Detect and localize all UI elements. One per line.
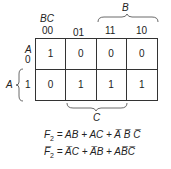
col-header-00: 00 xyxy=(42,26,53,36)
cell-0-10: 0 xyxy=(127,39,157,70)
row-header-0: 0 xyxy=(25,55,31,65)
cell-0-00: 1 xyxy=(36,39,66,70)
corner-label: BC xyxy=(40,14,54,24)
col-header-01: 01 xyxy=(73,28,84,38)
eq-sub: 2 xyxy=(50,135,54,142)
cell-1-11: 1 xyxy=(97,70,127,101)
brace-top-label: B xyxy=(122,3,129,13)
cell-1-10: 1 xyxy=(127,70,157,101)
brace-left-icon xyxy=(14,68,24,102)
brace-top-icon xyxy=(96,13,160,23)
cell-0-11: 0 xyxy=(97,39,127,70)
cell-1-01: 1 xyxy=(66,70,96,101)
equations: F2 = AB + AC + A̅ B̅ C̅ F̅2 = A̅C + A̅B … xyxy=(44,128,140,162)
col-header-10: 10 xyxy=(136,26,147,36)
brace-bottom-icon xyxy=(65,102,129,112)
brace-bottom-label: C xyxy=(93,113,100,123)
eq-rhs: = A̅C + A̅B + AB̅C̅ xyxy=(57,146,135,157)
brace-left-label: A xyxy=(6,80,13,90)
cell-1-00: 0 xyxy=(36,70,66,101)
eq-rhs: = AB + AC + A̅ B̅ C̅ xyxy=(57,129,141,140)
row-header-1: 1 xyxy=(25,80,31,90)
eq-sub: 2 xyxy=(50,152,54,159)
col-header-11: 11 xyxy=(105,26,115,36)
cell-0-01: 0 xyxy=(66,39,96,70)
equation-f2: F2 = AB + AC + A̅ B̅ C̅ xyxy=(44,128,140,145)
kmap-grid: 1 0 0 0 0 1 1 1 xyxy=(35,38,158,101)
equation-f2-complement: F̅2 = A̅C + A̅B + AB̅C̅ xyxy=(44,145,140,162)
